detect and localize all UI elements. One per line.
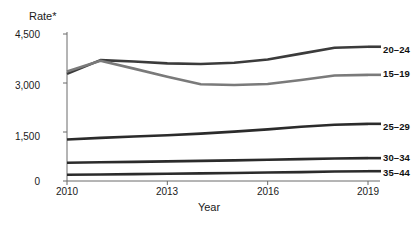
series-line-35-44 [67, 171, 368, 175]
x-tick-marks [67, 181, 368, 185]
series-label-25-29: 25–29 [383, 121, 410, 132]
series-label-30-34: 30–34 [383, 152, 410, 163]
series-label-35-44: 35–44 [383, 167, 410, 178]
plot-area [0, 0, 418, 227]
series-line-30-34 [67, 158, 368, 163]
chart-container: Rate* 4,500 3,000 1,500 0 2010 2013 2016… [0, 0, 418, 227]
series-label-20-24: 20–24 [383, 44, 410, 55]
series-label-15-19: 15–19 [383, 68, 410, 79]
series-line-25-29 [67, 124, 368, 140]
series-line-20-24 [67, 47, 368, 74]
series-lines [67, 47, 381, 175]
y-tick-marks [63, 34, 67, 181]
